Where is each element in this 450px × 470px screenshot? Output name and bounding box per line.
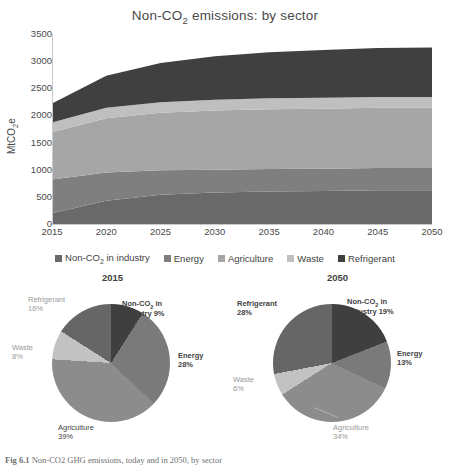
pie-title-2015: 2015	[0, 272, 225, 283]
pie-2050-label-waste: Waste 6%	[233, 376, 254, 393]
pie-2050-label-refrigerant-line2: 28%	[237, 308, 252, 317]
x-axis-tick: 2035	[259, 226, 280, 237]
plot-area	[52, 34, 432, 224]
y-axis-tick: 2000	[18, 110, 52, 120]
legend-label: Energy	[174, 253, 204, 264]
legend-swatch-icon	[55, 255, 62, 262]
legend-item-waste[interactable]: Waste	[287, 253, 324, 264]
pie-2015-label-waste-line2: 8%	[12, 352, 23, 361]
pie-2050-label-industry-line1: Non-CO	[347, 297, 375, 306]
pie-2015-label-agriculture-line2: 39%	[58, 432, 73, 441]
pie-2015-label-refrigerant-line2: 16%	[28, 304, 43, 313]
pie-2015-graphic	[52, 304, 170, 422]
pie-2050-label-refrigerant: Refrigerant 28%	[237, 300, 277, 317]
pie-2015-label-industry-line1: Non-CO	[122, 299, 150, 308]
pie-2050-label-agriculture-line2: 34%	[333, 432, 348, 441]
y-axis-tick: 1500	[18, 138, 52, 148]
legend-item-non-co[interactable]: Non-CO2 in industry	[55, 252, 150, 265]
legend-label: Waste	[297, 253, 324, 264]
pie-2050-graphic	[273, 304, 391, 422]
legend-label: Refrigerant	[348, 253, 395, 264]
pie-2015-label-waste: Waste 8%	[12, 344, 33, 361]
pie-chart-2050: 2050 Non-CO2 in industry 19% Energy 13% …	[225, 272, 450, 452]
x-axis-tick: 2030	[204, 226, 225, 237]
figure-caption: Fig 6.1 Non-CO2 GHG emissions, today and…	[5, 455, 445, 465]
chart-title: Non-CO2 emissions: by sector	[0, 8, 450, 26]
stacked-area-chart: MtCO2e 3500300025002000150010005000 2015…	[0, 34, 450, 256]
y-axis-line	[52, 34, 53, 224]
pie-2050-label-waste-line2: 6%	[233, 384, 244, 393]
pie-2015-label-energy: Energy 28%	[178, 352, 203, 369]
pie-2050-label-agriculture: Agriculture 34%	[333, 424, 369, 441]
area-series-svg	[52, 34, 432, 224]
pie-2015-label-refrigerant: Refrigerant 16%	[28, 296, 65, 313]
chart-title-rest: emissions: by sector	[188, 8, 318, 23]
chart-title-main: Non-CO	[132, 8, 183, 23]
pie-2050-label-industry: Non-CO2 in industry 19%	[347, 298, 394, 316]
pie-chart-2015: 2015 Non-CO2 in industry 9% Energy 28% A…	[0, 272, 225, 452]
y-axis-tick: 3000	[18, 56, 52, 66]
x-axis-tick: 2025	[150, 226, 171, 237]
legend-swatch-icon	[287, 255, 294, 262]
legend-swatch-icon	[164, 255, 171, 262]
x-axis-tick: 2050	[421, 226, 442, 237]
y-axis-tick: 2500	[18, 83, 52, 93]
y-axis-tick: 500	[18, 192, 52, 202]
chart-legend: Non-CO2 in industryEnergyAgricultureWast…	[0, 252, 450, 265]
figure-number: Fig 6.1	[5, 455, 30, 465]
pie-2050-label-industry-line1b: in	[378, 297, 387, 306]
x-axis-tick: 2040	[313, 226, 334, 237]
pie-2050-label-energy: Energy 13%	[397, 350, 422, 367]
pie-2050-label-industry-line2: industry 19%	[347, 307, 394, 316]
y-axis-tick: 1000	[18, 165, 52, 175]
y-axis-ticks: 3500300025002000150010005000	[14, 34, 52, 224]
legend-label: Non-CO2 in industry	[65, 252, 150, 265]
pie-2015-label-industry: Non-CO2 in industry 9%	[122, 300, 165, 318]
legend-swatch-icon	[218, 255, 225, 262]
pie-2015-label-industry-line1b: in	[153, 299, 162, 308]
legend-swatch-icon	[338, 255, 345, 262]
pie-2050-label-energy-line2: 13%	[397, 358, 412, 367]
legend-item-refrigerant[interactable]: Refrigerant	[338, 253, 395, 264]
x-axis-ticks: 20152020202520302035204020452050	[52, 226, 432, 242]
pie-title-2050: 2050	[225, 272, 450, 283]
pie-2015-label-industry-line2: industry 9%	[122, 309, 165, 318]
pie-2015-label-agriculture: Agriculture 39%	[58, 424, 94, 441]
pie-2015-label-energy-line2: 28%	[178, 360, 193, 369]
x-axis-line	[52, 224, 432, 225]
figure-caption-text: Non-CO2 GHG emissions, today and in 2050…	[30, 455, 222, 465]
legend-item-energy[interactable]: Energy	[164, 253, 204, 264]
figure: Non-CO2 emissions: by sector MtCO2e 3500…	[0, 0, 450, 470]
legend-item-agriculture[interactable]: Agriculture	[218, 253, 273, 264]
x-axis-tick: 2015	[41, 226, 62, 237]
y-axis-tick: 3500	[18, 29, 52, 39]
x-axis-tick: 2045	[367, 226, 388, 237]
x-axis-tick: 2020	[96, 226, 117, 237]
legend-label: Agriculture	[228, 253, 273, 264]
